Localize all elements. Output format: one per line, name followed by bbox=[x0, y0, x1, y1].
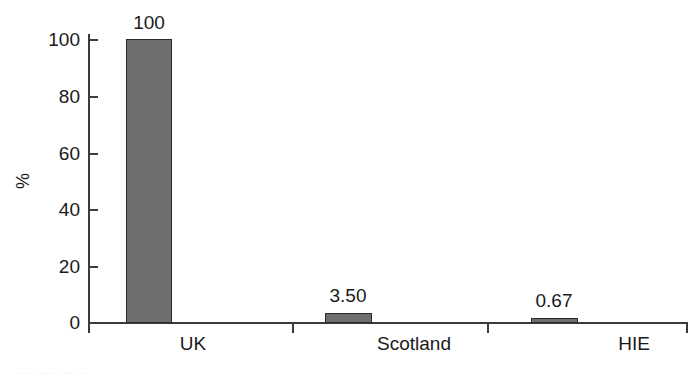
bar-uk bbox=[126, 39, 172, 323]
bar-chart-figure: 100 80 60 40 20 0 % 100 3.50 0.67 UK Sco… bbox=[0, 0, 700, 379]
y-axis-tick-label-20: 20 bbox=[30, 257, 80, 276]
y-axis-tick-label-60: 60 bbox=[30, 144, 80, 163]
scan-artifact-caption: .... ...... .... ... bbox=[18, 366, 318, 375]
y-axis-tick-80 bbox=[90, 96, 98, 98]
bar-value-label-hie: 0.67 bbox=[514, 291, 594, 311]
bar-hie bbox=[531, 318, 578, 323]
plot-area: 100 80 60 40 20 0 % 100 3.50 0.67 UK Sco… bbox=[0, 0, 700, 379]
bar-value-label-scotland: 3.50 bbox=[308, 286, 388, 306]
y-axis-tick-label-80: 80 bbox=[30, 87, 80, 106]
y-axis-title: % bbox=[14, 164, 32, 198]
y-axis-tick-label-100: 100 bbox=[30, 30, 80, 49]
y-axis-tick-20 bbox=[90, 266, 98, 268]
y-axis-tick-label-0: 0 bbox=[30, 313, 80, 332]
bar-value-label-uk: 100 bbox=[109, 13, 189, 33]
y-axis-tick-40 bbox=[90, 209, 98, 211]
x-axis-tick-scotland-hie bbox=[487, 324, 489, 333]
y-axis-tick-100 bbox=[90, 39, 98, 41]
x-axis-tick-end bbox=[686, 324, 688, 333]
bar-scotland bbox=[325, 313, 372, 323]
x-axis-tick-uk-scotland bbox=[292, 324, 294, 333]
x-axis-line bbox=[88, 322, 688, 324]
x-axis-label-scotland: Scotland bbox=[359, 333, 469, 355]
x-axis-tick-start bbox=[88, 324, 90, 333]
x-axis-label-hie: HIE bbox=[594, 333, 674, 355]
y-axis-tick-label-40: 40 bbox=[30, 200, 80, 219]
y-axis-line bbox=[88, 34, 90, 325]
x-axis-label-uk: UK bbox=[153, 333, 233, 355]
y-axis-tick-0 bbox=[90, 322, 98, 324]
y-axis-tick-60 bbox=[90, 153, 98, 155]
